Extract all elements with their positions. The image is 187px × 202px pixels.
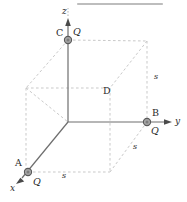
z-axis-arrowhead: [65, 18, 71, 26]
charge-markers: [24, 36, 150, 175]
cube-dashed-edges: [26, 40, 147, 172]
cube-edge-bottom-diag: [110, 122, 147, 172]
dimension-label-s-right: s: [154, 73, 158, 81]
x-axis-arrowhead: [16, 178, 24, 184]
point-label-D: D: [103, 86, 111, 96]
axis-arrowheads: [16, 18, 172, 184]
charge-label-A: Q: [33, 177, 41, 187]
dimension-label-s-diagonal: s: [133, 143, 137, 151]
charge-marker-C: [64, 36, 71, 43]
x-axis-label: x: [10, 184, 15, 193]
y-axis-arrowhead: [164, 119, 172, 125]
figure-canvas: z y x C Q B Q A Q D s s s: [0, 0, 187, 202]
cube-edge-top-front: [68, 40, 147, 41]
cube-diagram-svg: [0, 0, 187, 202]
charge-label-C: Q: [73, 27, 81, 37]
y-axis-label: y: [175, 117, 180, 126]
cube-edge-bottom-left-to-origin: [26, 88, 68, 122]
point-label-A: A: [15, 158, 22, 168]
dimension-label-s-bottom: s: [62, 172, 66, 180]
z-axis-label: z: [62, 7, 67, 16]
charge-marker-B: [143, 118, 150, 125]
point-label-B: B: [152, 108, 159, 118]
charge-marker-A: [24, 168, 31, 175]
point-label-C: C: [56, 28, 63, 38]
charge-label-B: Q: [151, 126, 159, 136]
axes-group: [22, 24, 166, 178]
cube-edge-top-diag: [110, 41, 147, 88]
cube-edge-top-left: [26, 40, 68, 88]
